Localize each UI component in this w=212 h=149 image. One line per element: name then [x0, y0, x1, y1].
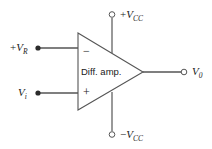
negative-supply-symbol: V	[126, 128, 133, 140]
reference-input-label: +VR	[10, 42, 28, 56]
negative-supply-terminal-circle	[109, 132, 115, 138]
signal-input-symbol: V	[18, 86, 25, 98]
negative-supply-subscript: CC	[133, 134, 143, 143]
signal-input-subscript: i	[25, 92, 27, 101]
circuit-diagram-figure: +VR Vi +VCC −VCC V0 − + Diff. amp.	[0, 0, 212, 149]
positive-supply-subscript: CC	[133, 14, 143, 23]
inverting-input-sign: −	[83, 45, 90, 57]
output-subscript: 0	[199, 71, 203, 80]
signal-input-label: Vi	[18, 87, 27, 101]
noninverting-input-sign: +	[83, 86, 90, 98]
negative-supply-label: −VCC	[120, 129, 143, 143]
signal-input-terminal-dot	[35, 90, 40, 95]
diff-amp-block-label: Diff. amp.	[81, 67, 121, 77]
output-symbol: V	[192, 65, 199, 77]
reference-input-symbol: V	[16, 41, 23, 53]
output-label: V0	[192, 66, 202, 80]
output-terminal-circle	[181, 69, 187, 75]
positive-supply-label: +VCC	[120, 9, 143, 23]
reference-input-subscript: R	[23, 47, 28, 56]
positive-supply-symbol: V	[126, 8, 133, 20]
reference-input-terminal-dot	[35, 45, 40, 50]
positive-supply-terminal-circle	[109, 12, 115, 18]
